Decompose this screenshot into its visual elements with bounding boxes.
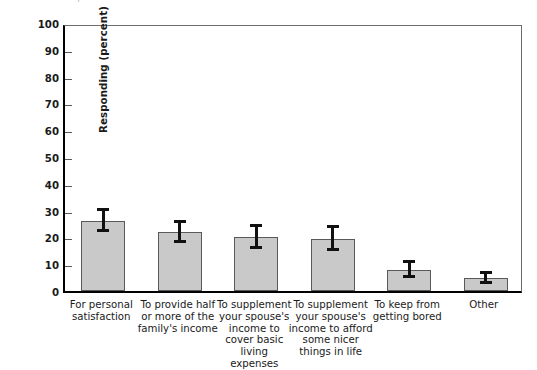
error-bar-cap-lower xyxy=(403,275,415,278)
x-axis-category-label: To supplementyour spouse'sincome tocover… xyxy=(212,299,297,370)
x-axis-category-label-line: For personal xyxy=(59,299,144,311)
x-axis-category-label-line: To supplement xyxy=(212,299,297,311)
error-bar-cap-upper xyxy=(403,260,415,263)
bar-group xyxy=(387,23,431,291)
x-axis-category-label: To provide halfor more of thefamily's in… xyxy=(136,299,221,334)
cropped-header-text: not possible when and do not do so when … xyxy=(0,0,537,9)
y-axis-tick-mark xyxy=(65,52,72,53)
x-axis-category-label: Other xyxy=(442,299,527,311)
y-axis-tick-label: 40 xyxy=(19,180,59,191)
error-bar-cap-upper xyxy=(327,225,339,228)
y-axis-tick-label: 30 xyxy=(19,207,59,218)
x-axis-category-label-line: some nicer xyxy=(289,334,374,346)
y-axis-tick-label: 60 xyxy=(19,126,59,137)
error-bar-cap-upper xyxy=(250,224,262,227)
y-axis-tick-mark xyxy=(65,132,72,133)
y-axis-tick-mark xyxy=(65,159,72,160)
x-axis-category-label-line: getting bored xyxy=(365,311,450,323)
y-axis-tick-mark xyxy=(65,79,72,80)
error-bar-cap-lower xyxy=(97,229,109,232)
x-axis-category-label-line: To keep from xyxy=(365,299,450,311)
error-bar-cap-lower xyxy=(250,246,262,249)
x-axis-category-label-line: income to xyxy=(212,323,297,335)
x-axis-category-label: For personalsatisfaction xyxy=(59,299,144,323)
bar-group xyxy=(158,23,202,291)
error-bar-cap-lower xyxy=(327,248,339,251)
y-axis-tick-label: 10 xyxy=(19,260,59,271)
error-bar-cap-upper xyxy=(480,271,492,274)
bar-group xyxy=(234,23,278,291)
y-axis-tick-label: 80 xyxy=(19,73,59,84)
error-bar-cap-upper xyxy=(174,220,186,223)
error-bar-cap-lower xyxy=(480,281,492,284)
error-bar-cap-upper xyxy=(97,208,109,211)
error-bar-cap-lower xyxy=(174,240,186,243)
y-axis-tick-label: 50 xyxy=(19,153,59,164)
bar-group xyxy=(464,23,508,291)
x-axis-category-label-line: things in life xyxy=(289,346,374,358)
y-axis-tick-mark xyxy=(65,266,72,267)
x-axis-category-label-line: cover basic living xyxy=(212,334,297,358)
y-axis-tick-mark xyxy=(65,239,72,240)
x-axis-category-label-line: or more of the xyxy=(136,311,221,323)
y-axis-tick-label: 100 xyxy=(19,19,59,30)
x-axis-category-label-line: your spouse's xyxy=(212,311,297,323)
y-axis-tick-mark xyxy=(65,186,72,187)
y-axis-tick-label: 90 xyxy=(19,46,59,57)
x-axis-category-label-line: family's income xyxy=(136,323,221,335)
bar-group xyxy=(81,23,125,291)
x-axis-category-label: To keep fromgetting bored xyxy=(365,299,450,323)
bar-group xyxy=(311,23,355,291)
x-axis-category-label-line: your spouse's xyxy=(289,311,374,323)
y-axis-tick-mark xyxy=(65,105,72,106)
x-axis-category-label-line: To supplement xyxy=(289,299,374,311)
x-axis-category-label-line: Other xyxy=(442,299,527,311)
x-axis-category-label-line: expenses xyxy=(212,358,297,370)
x-axis-category-label: To supplementyour spouse'sincome to affo… xyxy=(289,299,374,358)
x-axis-category-label-line: satisfaction xyxy=(59,311,144,323)
y-axis-tick-label: 70 xyxy=(19,99,59,110)
plot-area: Responding (percent) 0102030405060708090… xyxy=(63,25,522,293)
y-axis-tick-mark xyxy=(65,213,72,214)
x-axis-category-label-line: To provide half xyxy=(136,299,221,311)
y-axis-tick-label: 20 xyxy=(19,233,59,244)
y-axis-tick-label: 0 xyxy=(19,287,59,298)
x-axis-category-label-line: income to afford xyxy=(289,323,374,335)
